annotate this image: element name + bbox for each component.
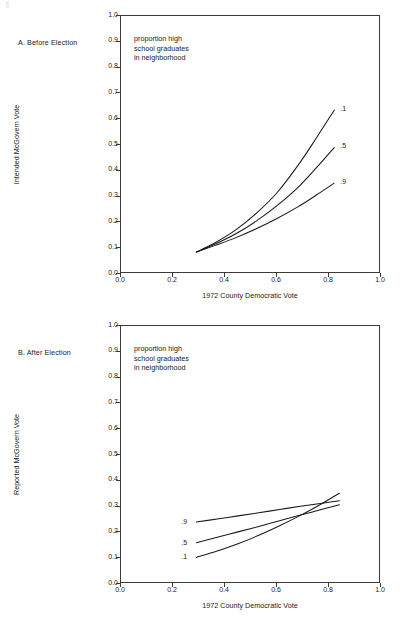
y-tick-label-0p2: 0.2 — [92, 217, 118, 224]
y-tick-mark-0p6 — [116, 428, 120, 429]
y-tick-mark-1p0 — [116, 15, 120, 16]
y-tick-mark-1p0 — [116, 325, 120, 326]
y-tick-mark-0p5 — [116, 454, 120, 455]
y-tick-label-0p3: 0.3 — [92, 191, 118, 198]
series-label-p1: .1 — [181, 553, 187, 560]
y-tick-label-1p0: 1.0 — [92, 321, 118, 328]
y-tick-label-0p5: 0.5 — [92, 450, 118, 457]
y-tick-label-0p8: 0.8 — [92, 372, 118, 379]
y-tick-label-0p9: 0.9 — [92, 36, 118, 43]
x-tick-label-0p2: 0.2 — [157, 586, 187, 593]
y-tick-mark-0p4 — [116, 170, 120, 171]
y-tick-label-0p3: 0.3 — [92, 501, 118, 508]
y-tick-label-0p1: 0.1 — [92, 243, 118, 250]
x-tick-mark-0p2 — [172, 273, 173, 277]
y-tick-mark-0p7 — [116, 402, 120, 403]
series-label-p9: .9 — [340, 178, 346, 185]
y-tick-label-0p4: 0.4 — [92, 475, 118, 482]
series-label-p9: .9 — [181, 518, 187, 525]
x-tick-label-0p0: 0.0 — [105, 276, 135, 283]
x-tick-label-0p4: 0.4 — [209, 586, 239, 593]
panel-a-x-axis-label: 1972 County Democratic Vote — [120, 291, 380, 300]
y-tick-label-0p7: 0.7 — [92, 88, 118, 95]
y-tick-mark-0p9 — [116, 351, 120, 352]
panel-b-x-axis-label: 1972 County Democratic Vote — [120, 601, 380, 610]
panel-a-y-axis-label: Intended McGovern Vote — [12, 85, 21, 205]
y-tick-label-0p7: 0.7 — [92, 398, 118, 405]
y-tick-mark-0p1 — [116, 557, 120, 558]
y-tick-mark-0p2 — [116, 221, 120, 222]
y-tick-mark-0p5 — [116, 144, 120, 145]
x-tick-mark-0p4 — [224, 273, 225, 277]
y-tick-label-0p4: 0.4 — [92, 165, 118, 172]
y-tick-mark-0p6 — [116, 118, 120, 119]
x-tick-mark-0p2 — [172, 583, 173, 587]
y-tick-mark-0p9 — [116, 41, 120, 42]
x-tick-label-0p6: 0.6 — [261, 276, 291, 283]
panel-b-y-axis-label: Reported McGovern Vote — [12, 395, 21, 515]
chart-panel-a: A. Before Election Intended McGovern Vot… — [0, 0, 407, 310]
y-tick-label-0p9: 0.9 — [92, 346, 118, 353]
y-tick-label-0p0: 0.0 — [92, 269, 118, 276]
y-tick-mark-0p8 — [116, 377, 120, 378]
x-tick-mark-0p6 — [276, 583, 277, 587]
y-tick-label-0p8: 0.8 — [92, 62, 118, 69]
series-line-p1 — [196, 110, 334, 252]
y-tick-mark-0p3 — [116, 196, 120, 197]
x-tick-label-0p2: 0.2 — [157, 276, 187, 283]
series-line-p5 — [196, 505, 339, 543]
chart-panel-b: B. After Election Reported McGovern Vote… — [0, 310, 407, 620]
y-tick-label-0p5: 0.5 — [92, 140, 118, 147]
x-tick-label-1p0: 1.0 — [365, 586, 395, 593]
figure-two-panel-chart: A. Before Election Intended McGovern Vot… — [0, 0, 407, 620]
x-tick-mark-1p0 — [380, 583, 381, 587]
y-tick-mark-0p1 — [116, 247, 120, 248]
x-tick-mark-0p6 — [276, 273, 277, 277]
y-tick-mark-0p7 — [116, 92, 120, 93]
y-tick-mark-0p4 — [116, 480, 120, 481]
x-tick-mark-0p0 — [120, 583, 121, 587]
x-tick-mark-0p8 — [328, 583, 329, 587]
panel-b-curves — [121, 326, 381, 584]
x-tick-label-0p8: 0.8 — [313, 586, 343, 593]
y-tick-mark-0p2 — [116, 531, 120, 532]
y-tick-label-0p1: 0.1 — [92, 553, 118, 560]
x-tick-mark-0p0 — [120, 273, 121, 277]
x-tick-mark-0p4 — [224, 583, 225, 587]
series-label-p1: .1 — [340, 105, 346, 112]
series-line-p9 — [196, 501, 339, 522]
panel-b-title: B. After Election — [18, 348, 71, 357]
series-line-p1 — [196, 493, 339, 557]
y-tick-label-0p6: 0.6 — [92, 424, 118, 431]
x-tick-mark-1p0 — [380, 273, 381, 277]
x-tick-label-1p0: 1.0 — [365, 276, 395, 283]
x-tick-label-0p6: 0.6 — [261, 586, 291, 593]
x-tick-label-0p4: 0.4 — [209, 276, 239, 283]
panel-a-title: A. Before Election — [18, 38, 77, 47]
y-tick-label-1p0: 1.0 — [92, 11, 118, 18]
series-label-p5: .5 — [181, 539, 187, 546]
panel-b-plot-frame: proportion high school graduates in neig… — [120, 325, 380, 583]
y-tick-label-0p2: 0.2 — [92, 527, 118, 534]
y-tick-label-0p6: 0.6 — [92, 114, 118, 121]
y-tick-mark-0p8 — [116, 67, 120, 68]
y-tick-label-0p0: 0.0 — [92, 579, 118, 586]
x-tick-mark-0p8 — [328, 273, 329, 277]
x-tick-label-0p8: 0.8 — [313, 276, 343, 283]
x-tick-label-0p0: 0.0 — [105, 586, 135, 593]
y-tick-mark-0p3 — [116, 506, 120, 507]
series-label-p5: .5 — [340, 142, 346, 149]
series-line-p5 — [196, 148, 334, 252]
